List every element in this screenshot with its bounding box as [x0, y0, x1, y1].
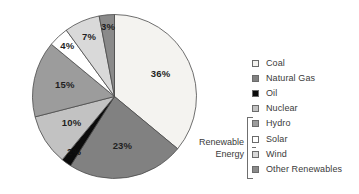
legend-swatch-icon [252, 60, 259, 67]
pie-chart-figure: 36%23%2%10%15%4%7%3% CoalNatural GasOilN… [0, 0, 359, 194]
legend-item[interactable]: Nuclear [252, 101, 359, 116]
legend-swatch-icon [252, 120, 259, 127]
pie-data-label: 3% [101, 21, 115, 32]
pie-data-label: 2% [67, 146, 81, 157]
legend-swatch-icon [252, 90, 259, 97]
legend-swatch-icon [252, 136, 259, 143]
renewable-energy-bracket [247, 117, 253, 179]
pie-data-label: 4% [60, 40, 74, 51]
legend-item-label: Oil [266, 89, 277, 98]
pie-data-label: 10% [62, 117, 82, 128]
legend-item-label: Wind [266, 150, 287, 159]
legend-item[interactable]: Coal [252, 56, 359, 71]
renewable-energy-bracket-tick [252, 147, 256, 148]
legend-item[interactable]: Solar [252, 131, 359, 146]
legend-item-label: Natural Gas [266, 74, 315, 83]
legend-item[interactable]: Other Renewables [252, 162, 359, 177]
pie-data-label: 36% [151, 68, 171, 79]
legend-item-label: Coal [266, 59, 285, 68]
legend-item-label: Solar [266, 135, 288, 144]
legend-item-label: Nuclear [266, 104, 298, 113]
legend-item[interactable]: Natural Gas [252, 71, 359, 86]
legend-item-label: Hydro [266, 119, 291, 128]
legend-item[interactable]: Wind [252, 147, 359, 162]
legend-swatch-icon [252, 151, 259, 158]
renewable-energy-label: Renewable Energy [168, 136, 244, 160]
legend-item[interactable]: Oil [252, 86, 359, 101]
pie-data-label: 15% [55, 79, 75, 90]
pie-data-label: 23% [113, 140, 133, 151]
legend-item[interactable]: Hydro [252, 116, 359, 131]
legend-swatch-icon [252, 105, 259, 112]
legend-swatch-icon [252, 75, 259, 82]
chart-legend: CoalNatural GasOilNuclearHydroSolarWindO… [252, 56, 359, 177]
legend-item-label: Other Renewables [266, 165, 342, 174]
pie-data-label: 7% [82, 31, 96, 42]
legend-swatch-icon [252, 166, 259, 173]
